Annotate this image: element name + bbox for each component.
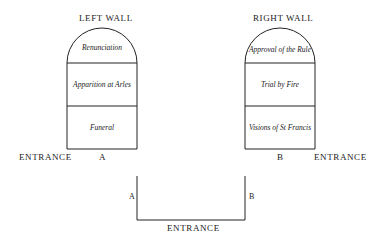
plan-right-marker: B: [249, 192, 255, 201]
chapel-plan-outline: [137, 176, 245, 220]
entrance-left-label: ENTRANCE: [19, 152, 72, 162]
right-panel-approval: Approval of the Rule: [245, 45, 315, 54]
plan-entrance-label: ENTRANCE: [167, 223, 220, 233]
left-wall-title: LEFT WALL: [79, 13, 133, 23]
right-panel-visions: Visions of St Francis: [245, 123, 315, 132]
plan-left-marker: A: [129, 192, 135, 201]
right-wall-title: RIGHT WALL: [253, 13, 313, 23]
left-wall-marker: A: [99, 152, 106, 162]
left-panel-funeral: Funeral: [67, 123, 137, 132]
left-panel-apparition: Apparition at Arles: [67, 80, 137, 89]
right-wall-marker: B: [277, 152, 284, 162]
diagram-lines: [0, 0, 381, 250]
right-panel-trial: Trial by Fire: [245, 80, 315, 89]
entrance-right-label: ENTRANCE: [314, 152, 367, 162]
left-panel-renunciation: Renunciation: [67, 43, 137, 52]
